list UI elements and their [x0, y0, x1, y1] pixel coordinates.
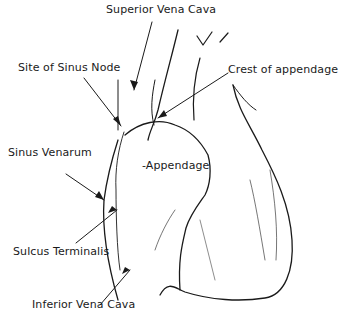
label-site-of-sinus-node: Site of Sinus Node	[18, 62, 120, 74]
label-sulcus-terminalis: Sulcus Terminalis	[13, 246, 109, 258]
label-sinus-venarum: Sinus Venarum	[8, 147, 92, 159]
label-crest-of-appendage: Crest of appendage	[228, 64, 338, 76]
label-appendage: -Appendage	[142, 160, 209, 172]
label-inferior-vena-cava: Inferior Vena Cava	[32, 299, 135, 311]
heart-diagram: Superior Vena Cava Site of Sinus Node Cr…	[0, 0, 355, 318]
label-superior-vena-cava: Superior Vena Cava	[106, 4, 216, 16]
